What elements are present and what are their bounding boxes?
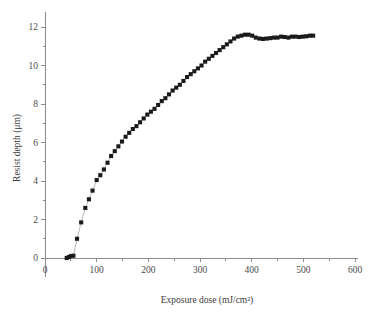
data-point-marker	[218, 48, 222, 52]
data-point-marker	[311, 34, 315, 38]
data-point-marker	[236, 35, 240, 39]
data-point-marker	[257, 37, 261, 41]
x-tick-label: 300	[193, 265, 208, 275]
y-tick-label: 0	[33, 253, 38, 263]
data-point-marker	[228, 39, 232, 43]
data-point-marker	[250, 34, 254, 38]
data-point-marker	[189, 72, 193, 76]
data-point-marker	[102, 167, 106, 171]
data-point-marker	[160, 99, 164, 103]
x-axis-title: Exposure dose (mJ/cm²)	[161, 295, 254, 306]
data-point-marker	[83, 206, 87, 210]
data-point-marker	[254, 36, 258, 40]
data-point-marker	[124, 135, 128, 139]
data-point-marker	[268, 36, 272, 40]
data-point-marker	[301, 35, 305, 39]
data-point-marker	[185, 75, 189, 79]
data-point-marker	[98, 173, 102, 177]
data-point-marker	[297, 35, 301, 39]
y-axis-title: Resist depth (μm)	[12, 114, 23, 182]
data-point-marker	[87, 197, 91, 201]
data-series-layer	[65, 33, 316, 260]
data-point-marker	[275, 36, 279, 40]
x-tick-label: 200	[141, 265, 156, 275]
x-tick-label: 500	[296, 265, 311, 275]
data-point-marker	[131, 127, 135, 131]
data-point-marker	[214, 51, 218, 55]
data-point-marker	[279, 35, 283, 39]
x-tick-label: 400	[245, 265, 260, 275]
data-point-marker	[181, 79, 185, 83]
data-point-marker	[196, 66, 200, 70]
y-tick-label: 4	[33, 176, 38, 186]
data-point-marker	[265, 37, 269, 41]
data-point-marker	[232, 37, 236, 41]
data-point-marker	[109, 154, 113, 158]
data-point-marker	[210, 54, 214, 58]
y-tick-label: 2	[33, 215, 38, 225]
data-point-marker	[192, 69, 196, 73]
data-point-marker	[304, 34, 308, 38]
data-point-marker	[283, 35, 287, 39]
data-point-marker	[105, 161, 109, 165]
data-point-marker	[134, 124, 138, 128]
data-point-marker	[225, 42, 229, 46]
data-point-marker	[152, 107, 156, 111]
x-tick-label: 0	[43, 265, 48, 275]
data-point-marker	[174, 86, 178, 90]
x-tick-label: 100	[90, 265, 105, 275]
data-point-marker	[221, 45, 225, 49]
data-point-marker	[127, 131, 131, 135]
data-point-marker	[120, 139, 124, 143]
data-point-marker	[171, 88, 175, 92]
data-point-marker	[272, 36, 276, 40]
data-point-marker	[95, 178, 99, 182]
data-point-marker	[90, 189, 94, 193]
resist-depth-chart: 0100200300400500600024681012 Exposure do…	[0, 0, 375, 316]
data-point-marker	[200, 63, 204, 67]
data-point-marker	[145, 113, 149, 117]
y-tick-label: 8	[33, 99, 38, 109]
data-point-marker	[149, 110, 153, 114]
data-point-marker	[286, 36, 290, 40]
y-tick-label: 6	[33, 138, 38, 148]
axes-layer	[41, 12, 358, 278]
data-point-marker	[207, 57, 211, 61]
data-point-marker	[294, 35, 298, 39]
data-point-marker	[178, 83, 182, 87]
y-tick-label: 10	[29, 61, 39, 71]
y-tick-label: 12	[29, 22, 39, 32]
data-point-marker	[163, 96, 167, 100]
data-point-marker	[116, 144, 120, 148]
figure-container: 0100200300400500600024681012 Exposure do…	[0, 0, 375, 316]
data-point-marker	[79, 220, 83, 224]
data-point-marker	[167, 92, 171, 96]
x-tick-label: 600	[348, 265, 363, 275]
data-point-marker	[71, 254, 75, 258]
data-point-marker	[243, 33, 247, 37]
data-point-marker	[247, 33, 251, 37]
data-connector-line	[67, 35, 313, 258]
data-point-marker	[156, 103, 160, 107]
data-point-marker	[239, 34, 243, 38]
data-point-marker	[113, 149, 117, 153]
data-point-marker	[142, 116, 146, 120]
data-point-marker	[290, 35, 294, 39]
data-point-marker	[261, 37, 265, 41]
data-point-marker	[203, 60, 207, 64]
data-point-marker	[75, 237, 79, 241]
data-point-marker	[138, 120, 142, 124]
